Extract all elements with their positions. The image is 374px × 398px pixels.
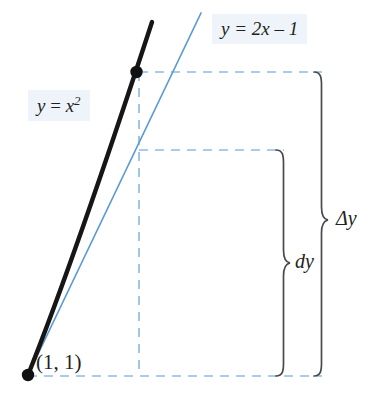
point-coordinate-label: (1, 1) [36,352,82,373]
tangent-line-equation-label: y = 2x – 1 [212,14,307,44]
delta-y-brace [314,72,328,376]
parabola-label-exponent: 2 [74,93,80,108]
parabola-equation-label: y = x2 [28,90,90,121]
point-1-1-marker [22,369,34,381]
dy-measure-label: dy [295,251,314,271]
tangent-line-curve [28,13,201,375]
dy-brace [276,150,290,376]
delta-y-measure-label: Δy [336,208,357,228]
differential-diagram [0,0,374,398]
parabola-label-equals: = [45,95,65,116]
parabola-label-base: x [66,95,74,116]
point-on-curve-marker [130,66,142,78]
